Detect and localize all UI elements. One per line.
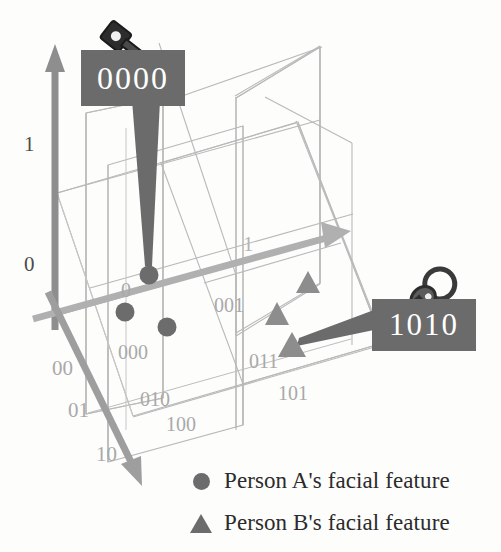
grid-code-0: 0 xyxy=(121,279,131,302)
y-tick-1: 1 xyxy=(24,132,35,157)
grid-code-011: 011 xyxy=(249,350,278,373)
grid-code-001: 001 xyxy=(214,294,244,317)
triangle-marker-icon xyxy=(186,514,216,533)
grid-code-100: 100 xyxy=(166,413,196,436)
legend-item-person-b: Person B's facial feature xyxy=(186,502,486,544)
legend-label-person-b: Person B's facial feature xyxy=(216,510,450,536)
z-tick-10: 10 xyxy=(96,442,117,467)
facial-feature-binary-space-figure: 0000 1010 1 0 1 00 01 10 0 000 001 011 0… xyxy=(0,0,501,552)
y-tick-0: 0 xyxy=(24,252,35,277)
legend-item-person-a: Person A's facial feature xyxy=(186,460,486,502)
z-tick-01: 01 xyxy=(68,398,89,423)
circle-marker-icon xyxy=(186,473,216,490)
legend: Person A's facial feature Person B's fac… xyxy=(186,460,486,544)
grid-code-101: 101 xyxy=(278,382,308,405)
grid-code-010: 010 xyxy=(140,388,170,411)
callout-0000[interactable]: 0000 xyxy=(81,50,185,106)
x-tick-1: 1 xyxy=(243,232,254,257)
legend-label-person-a: Person A's facial feature xyxy=(216,468,450,494)
grid-code-000: 000 xyxy=(118,341,148,364)
z-tick-00: 00 xyxy=(52,356,73,381)
callout-1010[interactable]: 1010 xyxy=(372,299,476,351)
